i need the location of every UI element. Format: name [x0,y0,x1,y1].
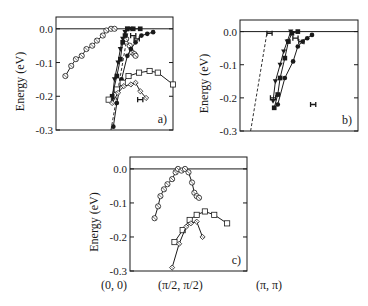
filled-triangle-marker [278,63,283,68]
filled-square-marker [278,76,283,81]
filled-triangle-marker [270,99,275,104]
filled-circle-marker [295,44,300,49]
filled-circle-marker [275,102,280,107]
y-tick-label: -0.1 [220,59,237,71]
panel-a: 0.0-0.1-0.2-0.3Energy (eV)a) [13,17,176,136]
filled-square-marker [295,29,300,34]
filled-square-marker [131,26,136,31]
bowtie-marker [293,36,298,41]
panel-label: b) [342,113,352,127]
filled-square-marker [283,56,288,61]
data-series [63,26,117,78]
data-series [267,31,316,107]
data-series [106,68,176,102]
filled-circle-marker [151,30,156,35]
y-axis-label: Energy (eV) [87,192,101,251]
data-series [275,33,314,107]
filled-circle-marker [129,47,134,52]
y-tick-label: -0.3 [110,265,128,277]
y-axis-label: Energy (eV) [197,54,211,113]
plot-frame [240,20,358,131]
open-square-marker [147,68,152,73]
filled-square-marker [123,33,128,38]
filled-square-marker [115,74,120,79]
dashed-guide-line [251,32,268,131]
panel-b: 0.0-0.1-0.2-0.3Energy (eV)b) [197,20,358,137]
y-tick-label: 0.0 [223,26,237,38]
x-tick-label: (0, 0) [101,278,127,292]
bowtie-marker [138,97,143,102]
open-square-marker [225,221,230,226]
bowtie-marker [311,102,316,107]
figure: 0.0-0.1-0.2-0.3Energy (eV)a) 0.0-0.1-0.2… [0,0,368,306]
bowtie-marker [131,33,136,38]
filled-circle-marker [283,76,288,81]
open-square-marker [106,97,111,102]
filled-square-marker [125,26,130,31]
filled-circle-marker [305,36,310,41]
filled-circle-marker [111,124,116,129]
series-line [65,29,114,76]
y-tick-label: -0.3 [220,125,238,137]
filled-square-marker [290,31,295,36]
filled-square-marker [118,57,123,62]
filled-square-marker [286,39,291,44]
open-square-marker [155,70,160,75]
open-square-marker [126,73,131,78]
y-tick-label: -0.3 [36,124,54,136]
filled-square-marker [138,26,143,31]
y-tick-label: -0.1 [36,57,53,69]
panel-c: 0.0-0.1-0.2-0.3Energy (eV)c)(0, 0)(π/2, … [87,157,282,292]
y-tick-label: 0.0 [39,23,53,35]
open-square-marker [170,82,175,87]
y-axis-label: Energy (eV) [13,52,27,111]
open-square-marker [212,212,217,217]
open-square-marker [194,212,199,217]
panel-label: a) [158,112,167,126]
y-tick-label: 0.0 [113,163,127,175]
x-tick-label: (π/2, π/2) [158,278,203,292]
filled-circle-marker [310,33,315,38]
filled-square-marker [120,40,125,45]
y-tick-label: -0.2 [220,92,237,104]
filled-circle-marker [145,32,150,37]
y-tick-label: -0.2 [36,90,53,102]
y-tick-label: -0.1 [110,197,127,209]
data-series [111,30,155,129]
y-tick-label: -0.2 [110,231,127,243]
filled-circle-marker [291,59,296,64]
open-square-marker [136,70,141,75]
panel-label: c) [232,253,241,267]
filled-square-marker [272,105,277,110]
filled-triangle-marker [273,79,278,84]
filled-circle-marker [125,53,130,58]
x-tick-label: (π, π) [256,278,282,292]
open-square-marker [202,209,207,214]
series-line [278,35,312,105]
